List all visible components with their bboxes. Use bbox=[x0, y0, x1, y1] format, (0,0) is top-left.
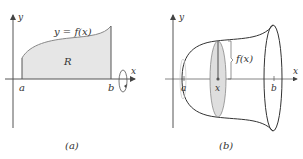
solid-upper-edge bbox=[182, 25, 273, 79]
tick-label-x: x bbox=[215, 83, 220, 93]
right-end-ellipse bbox=[264, 25, 282, 131]
caption-b: (b) bbox=[219, 140, 233, 151]
panel-b bbox=[165, 15, 297, 131]
curve-label: y = f(x) bbox=[53, 26, 92, 37]
x-axis-label-a: x bbox=[131, 66, 136, 76]
figure: y x y = f(x) R a b (a) y x f(x) a x b (b… bbox=[0, 0, 303, 159]
tick-label-b: b bbox=[271, 83, 277, 93]
radius-brace bbox=[228, 41, 233, 79]
tick-label-b: b bbox=[108, 82, 114, 93]
solid-lower-edge bbox=[182, 79, 273, 131]
radius-label: f(x) bbox=[235, 53, 253, 64]
y-axis-label-a: y bbox=[17, 12, 24, 22]
tick-label-a: a bbox=[181, 83, 186, 93]
y-axis-label-b: y bbox=[178, 12, 185, 22]
x-axis-label-b: x bbox=[293, 66, 298, 76]
region-label: R bbox=[63, 56, 72, 67]
rotation-arrow-icon bbox=[119, 70, 127, 92]
point-x bbox=[216, 77, 219, 80]
tick-label-a: a bbox=[19, 82, 25, 93]
caption-a: (a) bbox=[65, 140, 79, 151]
